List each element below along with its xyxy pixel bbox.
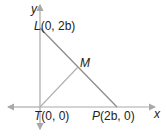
- point-M-label: M: [80, 57, 90, 69]
- point-T-label: T(0, 0): [34, 110, 69, 122]
- segment-TM: [40, 67, 78, 107]
- point-L-label: L(0, 2b): [34, 20, 75, 32]
- point-P-label: P(2b, 0): [92, 110, 135, 122]
- y-axis-label: y: [31, 3, 37, 15]
- x-axis-label: x: [154, 108, 160, 120]
